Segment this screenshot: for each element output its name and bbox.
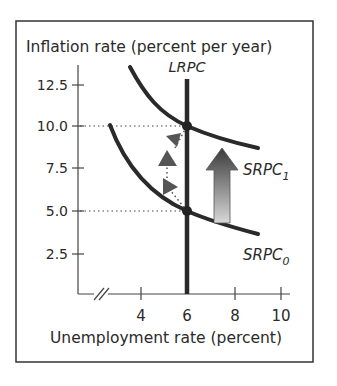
y-axis-title: Inflation rate (percent per year)	[26, 38, 272, 56]
x-axis-title: Unemployment rate (percent)	[50, 329, 282, 347]
y-tick-label: 12.5	[37, 77, 68, 93]
phillips-curve-chart: Inflation rate (percent per year) LRPC 1…	[0, 0, 337, 386]
x-tick-label: 8	[230, 307, 240, 325]
y-tick-label: 5.0	[46, 203, 68, 219]
x-tick-label: 6	[182, 307, 192, 325]
y-tick-label: 10.0	[37, 118, 68, 134]
y-tick-label: 7.5	[46, 160, 68, 176]
x-tick-label: 4	[136, 307, 146, 325]
equilibrium-point-10	[182, 121, 192, 131]
axis-break-icon	[94, 288, 109, 300]
y-tick-label: 2.5	[46, 246, 68, 262]
equilibrium-point-5	[182, 206, 192, 216]
lrpc-label: LRPC	[168, 59, 206, 75]
x-tick-label: 10	[271, 307, 290, 325]
